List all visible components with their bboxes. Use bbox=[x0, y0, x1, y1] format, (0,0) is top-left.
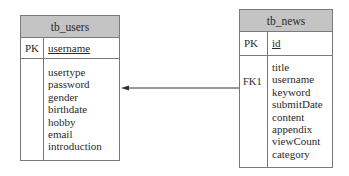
relationship-arrow bbox=[0, 0, 349, 176]
arrowhead-icon bbox=[121, 86, 129, 91]
